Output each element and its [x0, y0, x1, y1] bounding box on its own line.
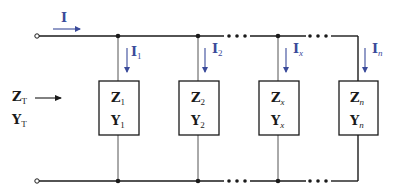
input-terminal-top	[35, 34, 39, 38]
total-impedance-label: ZT	[12, 89, 28, 106]
ellipsis-bottom-1	[227, 179, 247, 183]
ellipsis-top-1	[227, 34, 247, 38]
parallel-network-diagram: I I1 I2 Ix In Z1 Y1 Z2 Y2 Zx Yx Zn Yn ZT…	[0, 0, 394, 193]
ellipsis-bottom-2	[308, 179, 328, 183]
input-terminal-bottom	[35, 179, 39, 183]
total-admittance-label: YT	[11, 112, 27, 129]
ellipsis-top-2	[308, 34, 328, 38]
branch-current-label-1: I1	[131, 44, 142, 61]
source-current-label: I	[61, 10, 67, 25]
branch-current-label-x: Ix	[293, 41, 303, 58]
branch-current-label-n: In	[372, 41, 383, 58]
branch-current-label-2: I2	[212, 41, 223, 58]
